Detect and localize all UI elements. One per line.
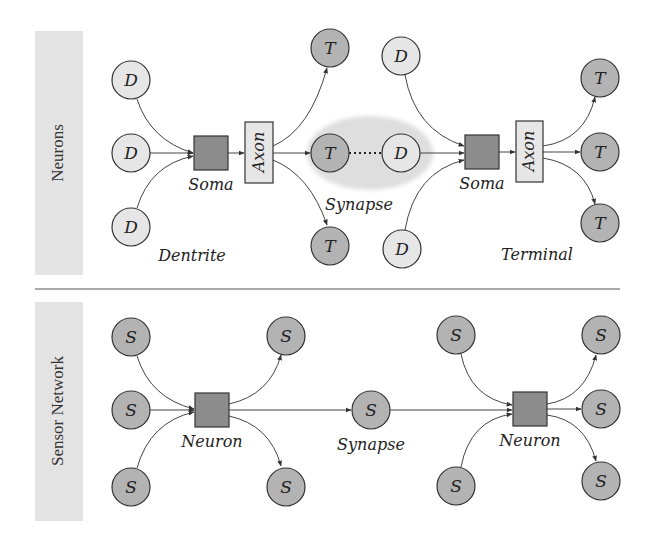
terminal-node: T	[311, 227, 349, 265]
right-neuron-edges	[405, 75, 595, 230]
neuron-left-node	[195, 393, 229, 427]
sensor-network-side-label: Sensor Network	[48, 355, 67, 466]
svg-text:D: D	[123, 143, 138, 163]
svg-text:T: T	[324, 236, 337, 256]
sensor-node: S	[582, 390, 620, 428]
sensor-synapse-label: Synapse	[337, 435, 405, 454]
soma-right-label: Soma	[459, 174, 504, 193]
svg-text:S: S	[125, 477, 137, 497]
sensor-node: S	[437, 467, 475, 505]
svg-text:S: S	[280, 326, 292, 346]
svg-text:S: S	[125, 400, 137, 420]
svg-text:S: S	[125, 327, 137, 347]
svg-text:S: S	[595, 399, 607, 419]
dendrite-node: D	[112, 134, 150, 172]
sensor-network-panel: Sensor Network S S S Neur	[35, 302, 620, 521]
neuron-right-node	[513, 392, 547, 426]
svg-text:D: D	[394, 239, 409, 259]
svg-text:S: S	[365, 400, 377, 420]
sensor-node: S	[437, 316, 475, 354]
left-neuron-edges	[137, 68, 327, 225]
sensor-node: S	[267, 317, 305, 355]
svg-text:S: S	[450, 325, 462, 345]
svg-text:T: T	[594, 142, 607, 162]
terminal-node: T	[581, 133, 619, 171]
neuron-right-label: Neuron	[498, 431, 560, 450]
sensor-node: S	[112, 318, 150, 356]
sensor-node: S	[582, 316, 620, 354]
svg-text:D: D	[123, 70, 138, 90]
svg-text:T: T	[594, 213, 607, 233]
sensor-node-synapse: S	[352, 391, 390, 429]
axon-right-label: Axon	[519, 131, 538, 174]
svg-text:S: S	[280, 477, 292, 497]
sensor-node: S	[112, 391, 150, 429]
svg-text:T: T	[594, 68, 607, 88]
terminal-node: T	[311, 29, 349, 67]
synapse-label: Synapse	[325, 195, 393, 214]
neurons-panel: Neurons D	[35, 29, 619, 275]
soma-left-label: Soma	[188, 175, 233, 194]
svg-text:S: S	[595, 471, 607, 491]
sensor-node: S	[582, 462, 620, 500]
dendrite-node: D	[112, 61, 150, 99]
svg-text:T: T	[324, 38, 337, 58]
axon-left-label: Axon	[249, 132, 268, 175]
dendrite-node: D	[382, 134, 420, 172]
svg-text:S: S	[450, 476, 462, 496]
dendrite-node: D	[112, 208, 150, 246]
soma-right	[465, 135, 499, 169]
dendrite-node: D	[382, 37, 420, 75]
sensor-node: S	[267, 468, 305, 506]
dentrite-label: Dentrite	[157, 246, 226, 265]
diagram-canvas: Neurons D	[0, 0, 657, 550]
dendrite-node: D	[383, 230, 421, 268]
svg-text:S: S	[595, 325, 607, 345]
svg-text:T: T	[324, 143, 337, 163]
terminal-node: T	[581, 59, 619, 97]
sensor-node: S	[112, 468, 150, 506]
terminal-node: T	[581, 204, 619, 242]
svg-text:D: D	[123, 217, 138, 237]
svg-text:D: D	[393, 46, 408, 66]
neuron-left-label: Neuron	[180, 432, 242, 451]
svg-text:D: D	[393, 143, 408, 163]
soma-left	[194, 136, 228, 170]
neurons-side-label: Neurons	[48, 124, 67, 182]
terminal-node: T	[311, 134, 349, 172]
terminal-label: Terminal	[501, 245, 573, 264]
